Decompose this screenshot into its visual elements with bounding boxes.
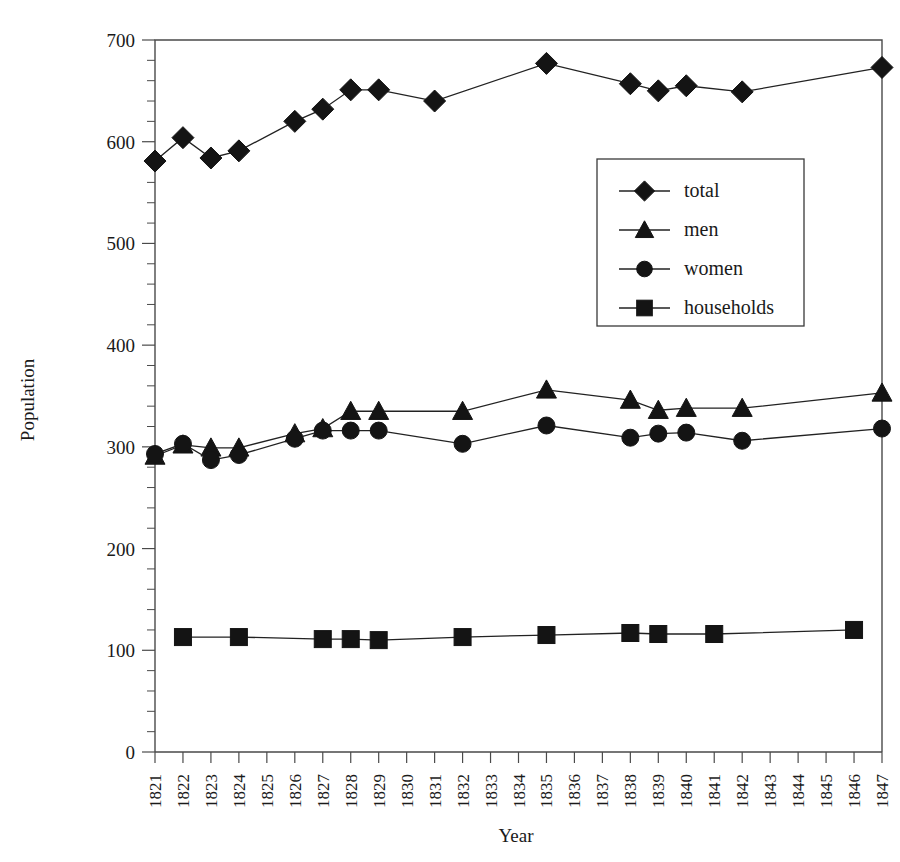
x-axis-tick-label: 1835 (537, 774, 556, 808)
square-marker (370, 632, 387, 649)
x-axis-tick-label: 1841 (705, 774, 724, 808)
x-axis-title: Year (498, 825, 534, 846)
x-axis-tick-label: 1836 (565, 774, 584, 808)
square-marker (174, 629, 191, 646)
circle-marker (454, 435, 471, 452)
x-axis-tick-label: 1843 (761, 774, 780, 808)
x-axis-tick-label: 1847 (873, 774, 892, 809)
x-axis-tick-label: 1837 (593, 774, 612, 809)
chart-background (0, 0, 900, 862)
legend-label: households (684, 296, 774, 318)
x-axis-tick-label: 1838 (621, 774, 640, 808)
x-axis-tick-label: 1833 (482, 774, 501, 808)
circle-marker (622, 429, 639, 446)
x-axis-tick-label: 1840 (677, 774, 696, 808)
circle-marker (678, 424, 695, 441)
square-marker (706, 626, 723, 643)
y-axis-tick-label: 400 (107, 335, 136, 356)
legend-label: women (684, 257, 743, 279)
circle-marker (874, 420, 891, 437)
y-axis-tick-label: 500 (107, 233, 136, 254)
x-axis-tick-label: 1821 (146, 774, 165, 808)
x-axis-tick-label: 1827 (314, 774, 333, 809)
circle-marker (286, 430, 303, 447)
x-axis-tick-label: 1846 (845, 774, 864, 808)
y-axis-tick-label: 300 (107, 437, 136, 458)
circle-marker (342, 422, 359, 439)
legend-label: total (684, 179, 720, 201)
x-axis-tick-label: 1844 (789, 774, 808, 809)
circle-marker (314, 422, 331, 439)
circle-marker (147, 445, 164, 462)
chart-canvas: 0100200300400500600700 18211822182318241… (0, 0, 900, 862)
square-marker (454, 629, 471, 646)
y-axis-tick-label: 0 (126, 742, 136, 763)
circle-marker (734, 432, 751, 449)
square-marker (538, 627, 555, 644)
square-marker (846, 621, 863, 638)
y-axis-tick-label: 200 (107, 539, 136, 560)
circle-marker (202, 452, 219, 469)
x-axis-tick-label: 1823 (202, 774, 221, 808)
legend-label: men (684, 218, 718, 240)
x-axis-tick-label: 1842 (733, 774, 752, 808)
x-axis-tick-label: 1822 (174, 774, 193, 808)
square-marker (342, 631, 359, 648)
square-marker (622, 624, 639, 641)
x-axis-tick-labels: 1821182218231824182518261827182818291830… (146, 774, 892, 809)
circle-marker (637, 261, 653, 277)
circle-marker (538, 417, 555, 434)
x-axis-tick-label: 1828 (342, 774, 361, 808)
circle-marker (174, 435, 191, 452)
x-axis-tick-label: 1829 (370, 774, 389, 808)
x-axis-tick-label: 1825 (258, 774, 277, 808)
circle-marker (230, 446, 247, 463)
circle-marker (650, 425, 667, 442)
y-axis-tick-label: 700 (107, 30, 136, 51)
x-axis-tick-label: 1834 (510, 774, 529, 809)
population-line-chart: 0100200300400500600700 18211822182318241… (0, 0, 900, 862)
square-marker (314, 631, 331, 648)
square-marker (637, 300, 653, 316)
circle-marker (370, 422, 387, 439)
x-axis-tick-label: 1832 (454, 774, 473, 808)
x-axis-tick-label: 1824 (230, 774, 249, 809)
chart-legend: totalmenwomenhouseholds (597, 159, 804, 326)
x-axis-tick-label: 1826 (286, 774, 305, 808)
x-axis-tick-label: 1839 (649, 774, 668, 808)
y-axis-title: Population (17, 358, 38, 441)
x-axis-tick-label: 1845 (817, 774, 836, 808)
square-marker (650, 626, 667, 643)
y-axis-tick-label: 100 (107, 640, 136, 661)
y-axis-tick-label: 600 (107, 132, 136, 153)
square-marker (230, 629, 247, 646)
x-axis-tick-label: 1831 (426, 774, 445, 808)
x-axis-tick-label: 1830 (398, 774, 417, 808)
